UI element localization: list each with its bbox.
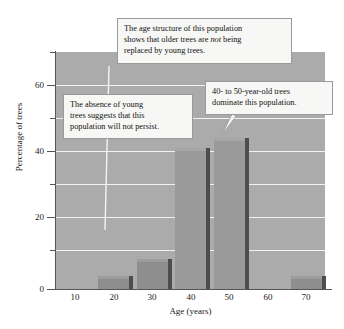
x-tick-label-40: 40 (187, 292, 196, 302)
annotation-age-structure-line1: The age structure of this population (124, 23, 286, 34)
y-tick-label-0: 0 (28, 284, 44, 294)
annotation-age-structure-line3: replaced by young trees. (124, 45, 286, 56)
y-tick-0 (47, 289, 55, 290)
x-tick-label-30: 30 (148, 292, 157, 302)
bar-age-70 (291, 279, 322, 289)
x-tick-label-20: 20 (110, 292, 119, 302)
annotation-dominant-line2: dominate this population. (212, 97, 327, 108)
annotation-text-segment: being (221, 35, 242, 44)
bar-age-30 (137, 262, 168, 289)
bar-side-face (245, 138, 249, 289)
annotation-text-segment: shows that older trees are (124, 35, 210, 44)
bar-side-face (322, 276, 326, 289)
bar-age-50 (214, 141, 245, 289)
tree-age-structure-bar-chart: 0 20 40 60 Percentage of trees 10 20 30 … (0, 0, 344, 329)
annotation-emphasis-not: not (210, 35, 221, 44)
x-tick-label-60: 60 (264, 292, 273, 302)
annotation-age-structure: The age structure of this population sho… (117, 18, 292, 64)
bar-top-face (137, 259, 168, 262)
bar-age-40 (175, 151, 206, 289)
bar-top-face (291, 276, 322, 279)
bar-age-20 (98, 279, 129, 289)
y-axis-title: Percentage of trees (14, 82, 24, 192)
y-tick-label-40: 40 (28, 146, 44, 156)
annotation-absence-young: The absence of young trees suggests that… (63, 94, 193, 139)
y-tick-30 (50, 184, 55, 185)
y-tick-70 (50, 52, 55, 53)
y-tick-20 (47, 217, 55, 218)
y-tick-10 (50, 250, 55, 251)
bar-top-face (175, 148, 206, 151)
annotation-absence-line1: The absence of young (70, 99, 187, 110)
annotation-dominant: 40- to 50-year-old trees dominate this p… (205, 81, 333, 115)
x-axis-line (55, 289, 332, 290)
x-tick-label-70: 70 (302, 292, 311, 302)
y-tick-40 (47, 151, 55, 152)
x-axis-title: Age (years) (56, 306, 325, 316)
bar-top-face (98, 276, 129, 279)
x-tick-label-50: 50 (225, 292, 234, 302)
annotation-age-structure-line2: shows that older trees are not being (124, 34, 286, 45)
bar-side-face (206, 148, 210, 289)
x-tick-label-10: 10 (71, 292, 80, 302)
bar-side-face (129, 276, 133, 289)
y-tick-60 (47, 85, 55, 86)
annotation-dominant-line1: 40- to 50-year-old trees (212, 86, 327, 97)
annotation-absence-line2: trees suggests that this (70, 110, 187, 121)
bar-side-face (168, 259, 172, 289)
y-tick-50 (50, 118, 55, 119)
y-axis-line (55, 51, 56, 290)
bar-top-face (214, 138, 245, 141)
annotation-absence-line3: population will not persist. (70, 121, 187, 132)
y-tick-label-20: 20 (28, 212, 44, 222)
y-tick-label-60: 60 (28, 80, 44, 90)
